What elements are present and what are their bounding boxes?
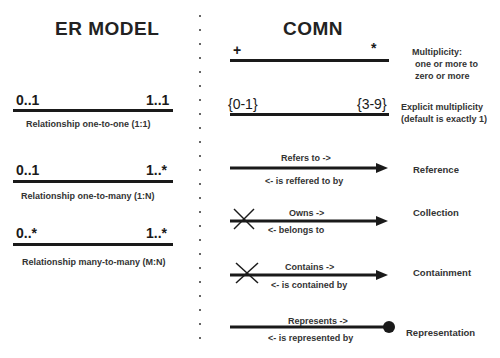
er-right-multiplicity: 1..* (146, 162, 167, 178)
backward-label: <- is contained by (271, 280, 347, 290)
comn-left-multiplicity: + (233, 42, 241, 58)
dot-end-line-icon (230, 320, 400, 334)
comn-right-multiplicity: * (371, 40, 376, 56)
divider-dot (199, 127, 201, 129)
divider-dot (199, 183, 201, 185)
er-model-title: ER MODEL (55, 18, 159, 40)
comn-row-label: Reference (413, 164, 459, 175)
divider-dot (199, 337, 201, 339)
er-left-multiplicity: 0..1 (16, 92, 39, 108)
divider-dot (199, 309, 201, 311)
er-relationship-line (13, 243, 173, 246)
divider-dot (199, 281, 201, 283)
er-caption: Relationship one-to-one (1:1) (26, 119, 151, 129)
divider-dot (199, 141, 201, 143)
divider-dot (199, 57, 201, 59)
er-caption: Relationship one-to-many (1:N) (21, 191, 155, 201)
arrow-line-icon (230, 163, 390, 173)
comn-row-label: Multiplicity: one or more to zero or mor… (412, 46, 478, 82)
comn-row-label: Explicit multiplicity (default is exactl… (401, 101, 487, 125)
divider-dot (199, 43, 201, 45)
divider-dot (199, 323, 201, 325)
comn-row-label: Containment (413, 267, 471, 278)
divider-dot (199, 85, 201, 87)
comn-row-label: Collection (413, 207, 459, 218)
comn-relationship-line (230, 113, 389, 116)
arrow-line-icon (230, 270, 390, 280)
comn-title: COMN (283, 18, 343, 40)
divider-dot (199, 15, 201, 17)
backward-label: <- belongs to (268, 225, 324, 235)
er-left-multiplicity: 0..1 (16, 162, 39, 178)
er-right-multiplicity: 1..* (146, 225, 167, 241)
divider-dot (199, 71, 201, 73)
comn-row-label: Representation (406, 327, 475, 338)
divider-dot (199, 197, 201, 199)
comn-left-multiplicity: {0-1} (228, 96, 258, 112)
comn-right-multiplicity: {3-9} (357, 96, 387, 112)
backward-label: <- is reffered to by (265, 176, 343, 186)
divider-dot (199, 295, 201, 297)
divider-dot (199, 267, 201, 269)
er-relationship-line (13, 109, 173, 112)
divider-dot (199, 253, 201, 255)
er-left-multiplicity: 0..* (16, 225, 37, 241)
er-right-multiplicity: 1..1 (146, 92, 169, 108)
divider-dot (199, 225, 201, 227)
divider-dot (199, 239, 201, 241)
er-caption: Relationship many-to-many (M:N) (22, 257, 166, 267)
comn-relationship-line (230, 59, 389, 62)
divider-dot (199, 155, 201, 157)
backward-label: <- is represented by (268, 333, 353, 343)
er-relationship-line (13, 180, 173, 183)
forward-label: Refers to -> (281, 153, 331, 163)
divider-dot (199, 113, 201, 115)
divider-dot (199, 29, 201, 31)
divider-dot (199, 211, 201, 213)
divider-dot (199, 99, 201, 101)
divider-dot (199, 169, 201, 171)
